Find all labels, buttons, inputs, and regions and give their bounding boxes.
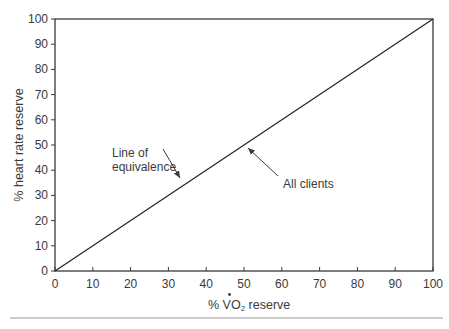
svg-text:% VO2 reserve: % VO2 reserve bbox=[208, 298, 290, 313]
y-tick-label: 70 bbox=[35, 88, 49, 102]
x-tick-label: 20 bbox=[124, 277, 138, 291]
y-tick-label: 40 bbox=[35, 163, 49, 177]
x-tick-label: 70 bbox=[313, 277, 327, 291]
y-tick-label: 80 bbox=[35, 62, 49, 76]
equivalence-line bbox=[55, 19, 433, 271]
y-tick-label: 90 bbox=[35, 37, 49, 51]
x-tick-label: 90 bbox=[389, 277, 403, 291]
x-tick-label: 0 bbox=[52, 277, 59, 291]
y-tick-label: 50 bbox=[35, 138, 49, 152]
y-axis-title: % heart rate reserve bbox=[12, 88, 26, 201]
dot-accent bbox=[228, 293, 231, 296]
x-tick-label: 100 bbox=[423, 277, 443, 291]
x-tick-label: 30 bbox=[162, 277, 176, 291]
y-tick-label: 30 bbox=[35, 188, 49, 202]
x-tick-label: 50 bbox=[237, 277, 251, 291]
arrow-all-clients bbox=[248, 148, 278, 176]
x-tick-label: 80 bbox=[351, 277, 365, 291]
x-tick-label: 10 bbox=[86, 277, 100, 291]
y-tick-label: 20 bbox=[35, 214, 49, 228]
annotation-line-of-equivalence: Line of equivalence bbox=[112, 146, 176, 174]
annotation-all-clients: All clients bbox=[283, 177, 334, 191]
y-axis-ticks: 0102030405060708090100 bbox=[28, 12, 55, 278]
y-tick-label: 100 bbox=[28, 12, 48, 26]
chart: 0102030405060708090100 01020304050607080… bbox=[0, 0, 449, 329]
x-tick-label: 60 bbox=[275, 277, 289, 291]
y-tick-label: 10 bbox=[35, 239, 49, 253]
x-axis-title: % VO2 reserve bbox=[208, 293, 290, 313]
x-tick-label: 40 bbox=[200, 277, 214, 291]
y-tick-label: 0 bbox=[41, 264, 48, 278]
y-tick-label: 60 bbox=[35, 113, 49, 127]
